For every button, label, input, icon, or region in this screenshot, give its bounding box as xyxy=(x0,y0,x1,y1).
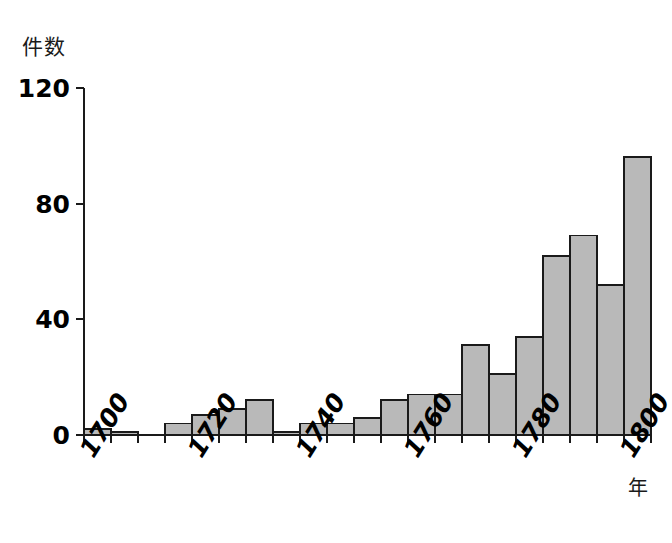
bar xyxy=(381,400,408,435)
bars-group xyxy=(84,157,651,435)
bar xyxy=(570,235,597,435)
bar xyxy=(597,285,624,435)
bar xyxy=(462,345,489,435)
y-tick-label: 0 xyxy=(0,421,70,450)
x-ticks-group xyxy=(84,435,651,443)
y-tick-label: 40 xyxy=(0,305,70,334)
y-tick-label: 80 xyxy=(0,189,70,218)
bar xyxy=(246,400,273,435)
y-tick-label: 120 xyxy=(0,73,70,102)
bar xyxy=(354,418,381,435)
bar xyxy=(489,374,516,435)
bar xyxy=(165,423,192,435)
